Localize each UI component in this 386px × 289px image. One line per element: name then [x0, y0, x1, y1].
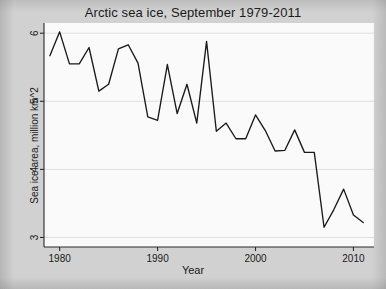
x-tick-group: 1980199020002010 [49, 247, 365, 264]
chart-figure: Arctic sea ice, September 1979-2011 3456… [0, 0, 386, 289]
chart-title: Arctic sea ice, September 1979-2011 [0, 5, 386, 20]
plot-background-group [44, 23, 374, 247]
x-tick-label-2000: 2000 [244, 253, 267, 264]
x-tick-label-1980: 1980 [49, 253, 72, 264]
plot-canvas: 3456 1980199020002010 [0, 0, 386, 289]
y-axis-label: Sea ice area, million km^2 [29, 46, 40, 246]
x-axis-label: Year [0, 264, 386, 276]
y-tick-label-6: 6 [30, 30, 41, 36]
x-tick-label-1990: 1990 [146, 253, 169, 264]
plot-area-background [44, 23, 374, 247]
x-tick-label-2010: 2010 [342, 253, 365, 264]
